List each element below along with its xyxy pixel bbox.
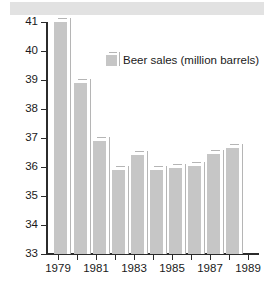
y-axis-label: 40 — [2, 45, 38, 56]
y-tick — [41, 109, 46, 110]
bar — [226, 148, 239, 254]
y-axis-label: 34 — [2, 219, 38, 230]
top-banner-strip — [10, 2, 264, 15]
bar — [150, 170, 163, 254]
bar — [188, 166, 201, 254]
bar — [112, 170, 125, 254]
legend-label-beer-sales: Beer sales (million barrels) — [123, 54, 259, 66]
y-tick — [41, 80, 46, 81]
bar-right-edge — [87, 79, 91, 254]
y-axis-label: 33 — [2, 248, 38, 259]
bar — [131, 155, 144, 254]
x-axis-label: 1989 — [228, 262, 268, 274]
bar-right-edge — [220, 150, 224, 254]
bar-right-edge — [163, 166, 167, 254]
bar — [74, 83, 87, 254]
x-tick — [210, 255, 211, 260]
x-axis-label: 1979 — [38, 262, 78, 274]
y-axis-label: 36 — [2, 161, 38, 172]
bar-right-edge — [182, 164, 186, 254]
x-tick — [153, 255, 154, 260]
y-axis-label: 39 — [2, 74, 38, 85]
x-tick — [96, 255, 97, 260]
x-tick — [58, 255, 59, 260]
y-axis-label: 38 — [2, 103, 38, 114]
bar-right-edge — [106, 137, 110, 254]
x-tick — [191, 255, 192, 260]
y-axis-line — [46, 22, 48, 255]
bar-right-edge — [144, 151, 148, 254]
y-axis-label: 37 — [2, 132, 38, 143]
x-tick — [248, 255, 249, 260]
y-tick — [41, 196, 46, 197]
bar-right-edge — [125, 166, 129, 254]
x-tick — [115, 255, 116, 260]
x-tick — [77, 255, 78, 260]
x-tick — [172, 255, 173, 260]
bar — [54, 22, 67, 254]
bar-right-edge — [67, 18, 71, 254]
x-tick — [134, 255, 135, 260]
bar — [207, 154, 220, 254]
x-axis-label: 1981 — [76, 262, 116, 274]
y-tick — [41, 167, 46, 168]
chart-legend: Beer sales (million barrels) — [106, 54, 259, 66]
y-tick — [41, 225, 46, 226]
bar — [169, 168, 182, 254]
y-tick — [41, 51, 46, 52]
y-tick — [41, 138, 46, 139]
bar-chart: 414039383736353433 197919811983198519871… — [0, 16, 274, 284]
bar — [93, 141, 106, 254]
bar-right-edge — [239, 144, 243, 254]
y-axis-label: 41 — [2, 16, 38, 27]
x-axis-label: 1987 — [190, 262, 230, 274]
bar-right-edge — [201, 162, 205, 254]
x-tick — [229, 255, 230, 260]
legend-swatch-right-edge — [117, 52, 120, 66]
y-tick — [41, 22, 46, 23]
x-axis-label: 1983 — [114, 262, 154, 274]
legend-swatch-beer-sales — [106, 55, 117, 66]
y-tick — [41, 254, 46, 255]
y-axis-label: 35 — [2, 190, 38, 201]
x-axis-label: 1985 — [152, 262, 192, 274]
